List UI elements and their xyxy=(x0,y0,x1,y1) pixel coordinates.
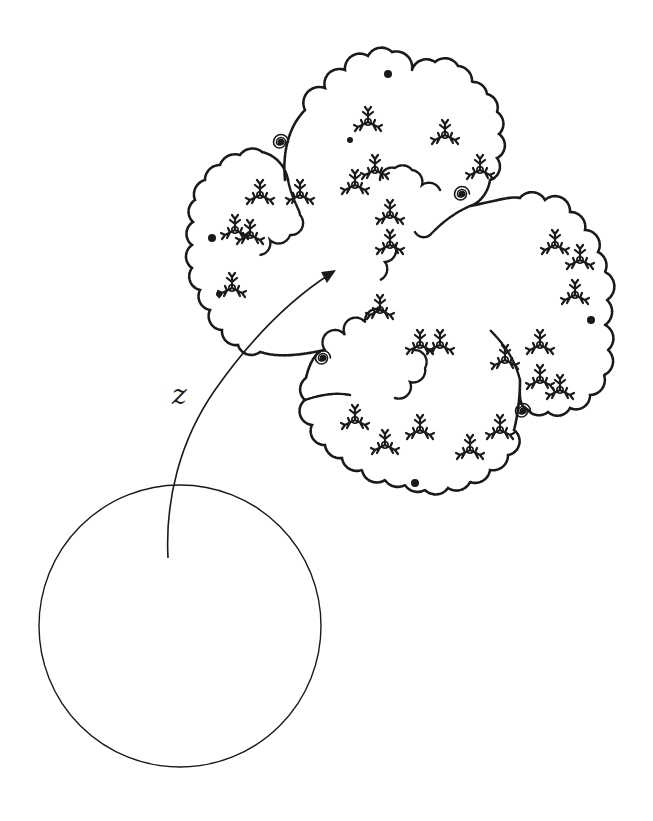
arrow-curve xyxy=(168,274,330,558)
fractal-nodes xyxy=(208,70,595,487)
diagram-canvas xyxy=(0,0,653,821)
unit-disk-circle xyxy=(39,485,321,767)
spiral-icon xyxy=(455,187,470,201)
spiral-icon xyxy=(316,351,331,365)
fractal-boundary xyxy=(186,48,614,495)
mapping-arrow xyxy=(168,270,336,558)
fractal-dendrites xyxy=(218,107,594,459)
arrowhead-icon xyxy=(321,270,336,283)
julia-set-fractal xyxy=(186,48,614,495)
arrow-label-z: z xyxy=(172,381,187,409)
